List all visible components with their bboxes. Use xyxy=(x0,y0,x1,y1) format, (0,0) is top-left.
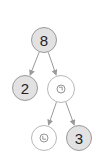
clock-icon xyxy=(39,133,49,143)
clock-icon xyxy=(56,84,66,94)
tree-node-left-2: 2 xyxy=(12,75,38,101)
tree-node-right-right-3: 3 xyxy=(66,125,92,151)
node-value: 3 xyxy=(75,131,83,146)
tree-node-root-8: 8 xyxy=(31,27,57,53)
tree-edge xyxy=(30,52,39,75)
binary-tree-diagram: 8 2 3 xyxy=(0,0,96,160)
tree-edge xyxy=(66,102,74,125)
tree-node-right-left-empty xyxy=(31,125,57,151)
tree-edge xyxy=(49,102,57,125)
tree-node-right-empty xyxy=(47,75,75,103)
tree-edge xyxy=(48,52,56,75)
node-value: 8 xyxy=(40,33,48,48)
node-value: 2 xyxy=(21,81,29,96)
